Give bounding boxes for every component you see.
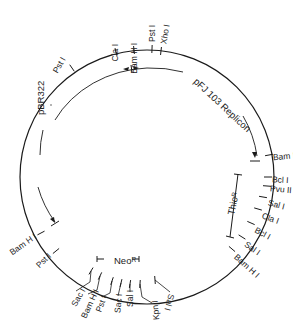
site-label: Pvu II [270, 183, 293, 195]
site-label: Sal I [125, 290, 135, 307]
arrow-icon [252, 152, 257, 158]
site-tick [247, 221, 254, 224]
site-label: Kpn I [150, 300, 162, 321]
site-label: Bam H I [8, 231, 39, 257]
dot-marker [50, 104, 52, 106]
site-label: Sac I [112, 293, 124, 313]
plasmid-map: Pst ICla IBam H IPst IXho IBam H IBcl IP… [0, 0, 293, 331]
site-label: Cla I [261, 211, 281, 226]
region-label: NeoR [114, 255, 136, 266]
site-tick [161, 47, 162, 55]
leader-line [102, 281, 112, 297]
leader-line [155, 280, 170, 292]
region-label: pBR322 [35, 81, 46, 115]
region-label: pFJ 103 Replicon [192, 75, 254, 133]
restriction-sites-bottom: Sac IBam H IPst ISac ISal IKpn ISal I [69, 268, 177, 321]
site-label: Xho I [158, 23, 171, 44]
pbr322-arc-bottom [38, 187, 55, 222]
site-label: Sal I [243, 239, 263, 257]
site-label: Pst I [147, 25, 157, 42]
site-tick [239, 235, 246, 239]
site-tick [37, 231, 44, 235]
site-label: Cla I [110, 44, 120, 61]
site-label: Bcl I [253, 225, 272, 242]
site-label: Bam H I [272, 150, 293, 163]
pbr322-arc-top [40, 130, 43, 155]
region-label: ThioR [225, 191, 241, 216]
replicon-arc-left [55, 68, 147, 120]
leader-line [140, 284, 152, 303]
site-label: Bam H I [129, 43, 139, 74]
site-tick [259, 196, 267, 197]
restriction-sites-outer: Pst ICla IBam H IPst IXho IBam H IBcl IP… [8, 23, 293, 279]
site-label: Sal I [162, 293, 176, 312]
thio-bracket-end [234, 174, 242, 175]
site-tick [229, 246, 235, 251]
arrow-icon [50, 217, 55, 223]
site-tick [53, 248, 59, 253]
site-label: Pst I [51, 55, 68, 75]
site-tick [254, 208, 262, 210]
plasmid-ring [20, 50, 274, 304]
site-tick [70, 65, 75, 72]
site-label: Pst I [34, 251, 53, 270]
replicon-arc-top [147, 68, 183, 72]
